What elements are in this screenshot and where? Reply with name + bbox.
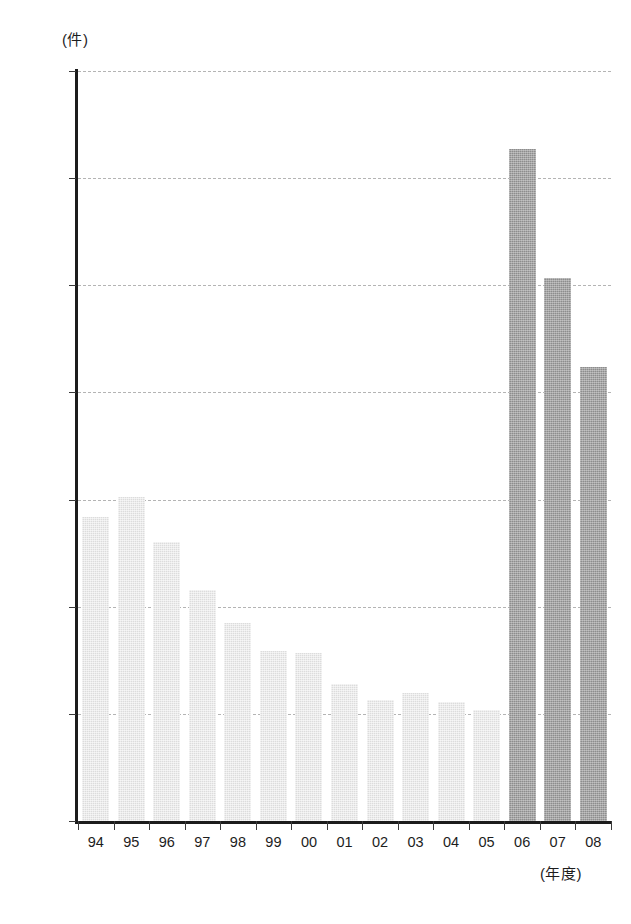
bar: [544, 278, 571, 821]
x-tick-mark: [575, 821, 576, 830]
bar: [473, 710, 500, 821]
y-tick-mark: [69, 821, 76, 822]
bar: [331, 684, 358, 821]
gridline: [78, 71, 611, 72]
x-tick-label: 99: [253, 834, 293, 850]
y-tick-mark: [69, 285, 76, 286]
y-tick-mark: [69, 71, 76, 72]
x-tick-mark: [433, 821, 434, 830]
y-tick-mark: [69, 500, 76, 501]
x-tick-label: 94: [76, 834, 116, 850]
x-tick-label: 05: [467, 834, 507, 850]
bar: [153, 542, 180, 821]
x-tick-mark: [220, 821, 221, 830]
x-tick-label: 02: [360, 834, 400, 850]
x-axis-unit-label: (年度): [540, 862, 582, 883]
x-tick-label: 07: [538, 834, 578, 850]
x-tick-mark: [327, 821, 328, 830]
x-tick-mark: [78, 821, 79, 830]
x-tick-mark: [256, 821, 257, 830]
x-tick-mark: [540, 821, 541, 830]
bar: [580, 367, 607, 821]
bar: [118, 497, 145, 821]
x-tick-mark: [504, 821, 505, 830]
x-tick-mark: [185, 821, 186, 830]
x-tick-mark: [149, 821, 150, 830]
bar: [260, 651, 287, 821]
x-tick-mark: [291, 821, 292, 830]
x-tick-label: 98: [218, 834, 258, 850]
x-tick-label: 06: [502, 834, 542, 850]
x-tick-mark: [362, 821, 363, 830]
x-tick-label: 96: [147, 834, 187, 850]
x-tick-mark: [469, 821, 470, 830]
x-tick-label: 08: [573, 834, 613, 850]
x-tick-label: 04: [431, 834, 471, 850]
bar: [82, 517, 109, 821]
y-tick-mark: [69, 392, 76, 393]
y-axis-unit-label: (件): [62, 28, 89, 49]
x-tick-label: 97: [182, 834, 222, 850]
bar: [224, 623, 251, 821]
x-tick-label: 95: [111, 834, 151, 850]
x-tick-label: 00: [289, 834, 329, 850]
plot-area: 020000400006000080000100000120000140000: [78, 71, 611, 821]
bar: [509, 149, 536, 821]
x-tick-label: 03: [396, 834, 436, 850]
bar: [438, 702, 465, 821]
y-tick-mark: [69, 607, 76, 608]
x-tick-label: 01: [325, 834, 365, 850]
bar-chart: (件) 020000400006000080000100000120000140…: [0, 0, 631, 924]
x-axis-line: [75, 821, 612, 824]
bar: [189, 590, 216, 821]
y-tick-mark: [69, 178, 76, 179]
bar: [367, 700, 394, 821]
bar: [295, 653, 322, 821]
x-tick-mark: [611, 821, 612, 830]
bar: [402, 693, 429, 821]
y-tick-mark: [69, 714, 76, 715]
y-axis-line: [75, 69, 78, 823]
x-tick-mark: [114, 821, 115, 830]
x-tick-mark: [398, 821, 399, 830]
